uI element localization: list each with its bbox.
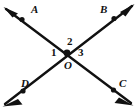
vertex-point-o [64, 50, 71, 57]
point-label-b: B [100, 4, 107, 15]
angle-label-3: 3 [78, 47, 84, 58]
angle-label-1: 1 [51, 47, 57, 58]
ray-point-marker-d-icon [20, 88, 25, 93]
vertex-label-o: O [64, 60, 72, 71]
ray-point-marker-b-icon [111, 16, 116, 21]
point-label-c: C [119, 78, 126, 89]
geometry-diagram: A B C D 1 2 3 O [0, 0, 138, 109]
ray-point-marker-c-icon [111, 87, 116, 92]
intersecting-lines-figure [0, 0, 138, 109]
point-label-d: D [21, 78, 29, 89]
ray-point-marker-a-icon [19, 17, 24, 22]
point-label-a: A [31, 4, 38, 15]
angle-label-2: 2 [67, 36, 73, 47]
